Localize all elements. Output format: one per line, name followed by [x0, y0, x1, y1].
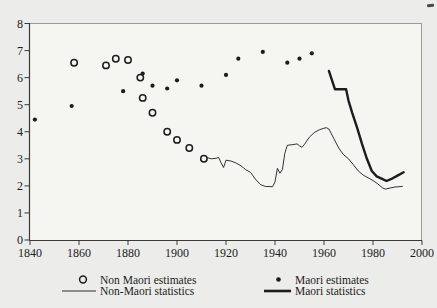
y-tick-label: 3: [17, 152, 23, 166]
maori-estimates-point: [70, 104, 74, 108]
x-tick-label: 1940: [263, 246, 287, 260]
y-tick-label: 5: [17, 98, 23, 112]
maori-estimates-point: [121, 89, 125, 93]
x-tick-label: 1960: [312, 246, 336, 260]
chart-legend: Non Maori estimates Non-Maori statistics…: [62, 274, 369, 297]
maori-estimates-point: [236, 57, 240, 61]
maori-estimates-point: [141, 72, 145, 76]
chart-page: 012345678 184018601880190019201940196019…: [0, 0, 437, 308]
maori-estimates-point: [199, 84, 203, 88]
legend-label-maori-statistics: Maori statistics: [295, 285, 366, 297]
maori-estimates-point: [165, 86, 169, 90]
plot-area: [30, 24, 422, 241]
maori-estimates-point: [33, 118, 37, 122]
maori-estimates-point: [310, 51, 314, 55]
y-tick-label: 8: [17, 17, 23, 31]
maori-estimates-point: [224, 73, 228, 77]
x-tick-label: 1900: [165, 246, 189, 260]
legend-label-non-maori-statistics: Non-Maori statistics: [100, 285, 195, 297]
y-tick-label: 1: [17, 206, 23, 220]
y-tick-label: 6: [17, 71, 23, 85]
x-tick-label: 1860: [67, 246, 91, 260]
x-tick-label: 2000: [410, 246, 434, 260]
fertility-chart: 012345678 184018601880190019201940196019…: [0, 0, 437, 308]
maori-estimates-point: [150, 84, 154, 88]
maori-estimates-point: [261, 50, 265, 54]
x-tick-label: 1840: [18, 246, 42, 260]
legend-filled-circle-marker: [276, 277, 281, 282]
y-tick-label: 0: [17, 233, 23, 247]
y-tick-label: 2: [17, 179, 23, 193]
maori-estimates-point: [285, 61, 289, 65]
y-tick-label: 4: [17, 125, 23, 139]
x-tick-label: 1920: [214, 246, 238, 260]
x-axis-ticks: 184018601880190019201940196019802000: [18, 241, 434, 261]
y-tick-label: 7: [17, 44, 23, 58]
maori-estimates-point: [297, 57, 301, 61]
legend-open-circle-marker: [80, 276, 87, 283]
x-tick-label: 1980: [361, 246, 385, 260]
x-tick-label: 1880: [116, 246, 140, 260]
y-axis-ticks: 012345678: [17, 17, 30, 248]
maori-estimates-point: [175, 78, 179, 82]
ink-smudge-artifact-icon: [427, 4, 434, 8]
